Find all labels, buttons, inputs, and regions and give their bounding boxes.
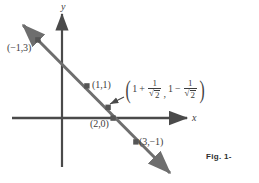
point-label-neg1-3: (−1,3) [7, 42, 31, 53]
second-fraction-numerator: 1 [186, 79, 195, 88]
expression-second-term: 1 [168, 84, 173, 94]
plotted-line [24, 26, 170, 173]
point-label-3-neg1: (3,−1) [139, 136, 163, 147]
expression-open-paren: ( [126, 80, 131, 100]
y-axis-label: y [61, 1, 65, 12]
point-marker-2-0 [110, 115, 115, 120]
expression-second-operator: − [174, 84, 182, 94]
expression-first-operator: + [138, 84, 146, 94]
point-marker-3-neg1 [133, 139, 138, 144]
second-fraction-denominator: √ 2 [184, 89, 197, 100]
first-radicand: 2 [154, 90, 161, 100]
second-radicand: 2 [190, 90, 197, 100]
point-label-2-0: (2,0) [90, 118, 109, 129]
first-radical: √ 2 [149, 89, 160, 100]
expression-first-term: 1 [132, 84, 137, 94]
point-marker-neg1-3 [35, 37, 40, 42]
figure-container: y x (−1,3) (1,1) (2,0) (3,−1) ( 1 + 1 √ … [0, 0, 259, 183]
annotation-pointer [110, 97, 124, 104]
point-label-1-1: (1,1) [92, 79, 111, 90]
expression-close-paren: ) [200, 80, 205, 100]
point-marker-irrational [105, 105, 110, 110]
irrational-point-label: ( 1 + 1 √ 2 , 1 − 1 [124, 79, 206, 100]
expression-separator: , [163, 89, 167, 100]
first-fraction-numerator: 1 [150, 79, 159, 88]
figure-caption: Fig. 1- [206, 152, 232, 161]
x-axis-label: x [192, 112, 196, 123]
second-radical: √ 2 [185, 89, 196, 100]
first-fraction-denominator: √ 2 [148, 89, 161, 100]
point-marker-1-1 [84, 83, 89, 88]
expression-second-fraction: 1 √ 2 [184, 79, 197, 100]
expression-first-fraction: 1 √ 2 [148, 79, 161, 100]
expression-body: 1 + 1 √ 2 , 1 − 1 √ [132, 79, 198, 100]
